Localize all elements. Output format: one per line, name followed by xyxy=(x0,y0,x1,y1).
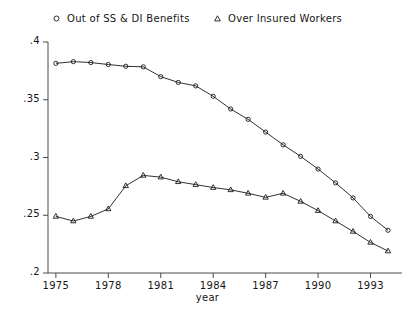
y-axis-tick-label: .35 xyxy=(14,93,40,104)
y-axis-tick-label: .2 xyxy=(14,266,40,277)
y-axis-tick-label: .3 xyxy=(14,151,40,162)
x-axis-title: year xyxy=(0,292,415,303)
x-axis-tick-label: 1981 xyxy=(141,280,181,291)
series-line-1 xyxy=(56,175,388,251)
data-point-triangle xyxy=(123,183,128,188)
data-point-triangle xyxy=(53,214,58,219)
chart-root: Out of SS & DI Benefits Over Insured Wor… xyxy=(0,0,415,313)
y-axis-tick-label: .4 xyxy=(14,35,40,46)
data-point-triangle xyxy=(333,218,338,223)
y-axis-tick-label: .25 xyxy=(14,208,40,219)
x-axis-tick-label: 1993 xyxy=(351,280,391,291)
data-point-triangle xyxy=(280,190,285,195)
x-axis-tick-label: 1984 xyxy=(193,280,233,291)
plot-area xyxy=(0,0,415,313)
series-line-0 xyxy=(56,62,388,231)
x-axis-tick-label: 1987 xyxy=(246,280,286,291)
x-axis-tick-label: 1975 xyxy=(36,280,76,291)
data-point-triangle xyxy=(141,173,146,178)
data-point-triangle xyxy=(350,229,355,234)
x-axis-tick-label: 1990 xyxy=(298,280,338,291)
data-point-triangle xyxy=(368,239,373,244)
x-axis-tick-label: 1978 xyxy=(88,280,128,291)
